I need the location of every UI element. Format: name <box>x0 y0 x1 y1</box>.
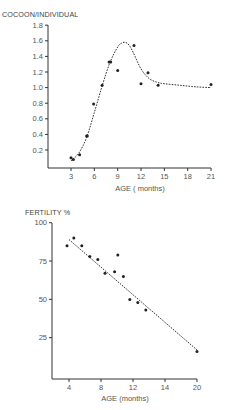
fertility-axes <box>52 223 197 379</box>
cocoon-chart-svg: COCOON/INDIVIDUAL 0.20.40.60.81.01.21.41… <box>0 0 227 205</box>
y-tick-label: 1.6 <box>33 36 43 45</box>
data-point <box>133 44 136 47</box>
x-tick-label: 3 <box>69 172 73 181</box>
y-tick-label: 0.6 <box>33 114 43 123</box>
fertility-data-points <box>66 237 199 354</box>
cocoon-x-axis-ticks: 36912151821 <box>69 168 215 181</box>
fertility-x-axis-ticks: 48121420 <box>67 379 201 392</box>
cocoon-data-points <box>70 44 213 161</box>
data-point <box>92 103 95 106</box>
x-tick-label: 8 <box>99 383 103 392</box>
y-tick-label: 25 <box>39 333 47 342</box>
data-point <box>157 84 160 87</box>
data-point <box>196 350 199 353</box>
x-tick-label: 12 <box>129 383 137 392</box>
y-tick-label: 0.4 <box>33 130 43 139</box>
y-tick-label: 0.8 <box>33 99 43 108</box>
data-point <box>122 275 125 278</box>
data-point <box>210 83 213 86</box>
data-point <box>147 71 150 74</box>
y-tick-label: 1.0 <box>33 83 43 92</box>
x-tick-label: 9 <box>116 172 120 181</box>
fertility-chart-title: FERTILITY % <box>25 208 71 217</box>
data-point <box>72 237 75 240</box>
cocoon-y-axis-ticks: 0.20.40.60.81.01.21.41.61.8 <box>33 21 48 155</box>
data-point <box>113 270 116 273</box>
data-point <box>128 298 131 301</box>
data-point <box>116 253 119 256</box>
x-tick-label: 14 <box>161 383 169 392</box>
fertility-x-axis-label: AGE (months) <box>101 394 149 403</box>
cocoon-fitted-curve <box>71 42 211 161</box>
data-point <box>88 255 91 258</box>
y-tick-label: 1.2 <box>33 68 43 77</box>
data-point <box>136 301 139 304</box>
y-tick-label: 1.8 <box>33 21 43 30</box>
x-tick-label: 15 <box>160 172 168 181</box>
cocoon-chart-title: COCOON/INDIVIDUAL <box>2 10 78 19</box>
data-point <box>86 135 89 138</box>
fertility-regression-line <box>69 240 197 350</box>
data-point <box>80 244 83 247</box>
data-point <box>78 153 81 156</box>
data-point <box>66 244 69 247</box>
data-point <box>144 309 147 312</box>
y-tick-label: 100 <box>34 218 47 227</box>
x-tick-label: 21 <box>207 172 215 181</box>
x-tick-label: 12 <box>137 172 145 181</box>
x-tick-label: 18 <box>184 172 192 181</box>
data-point <box>116 69 119 72</box>
y-tick-label: 0.2 <box>33 146 43 155</box>
x-tick-label: 6 <box>92 172 96 181</box>
y-tick-label: 1.4 <box>33 52 43 61</box>
cocoon-x-axis-label: AGE ( months) <box>115 184 165 193</box>
y-tick-label: 75 <box>39 257 47 266</box>
fertility-chart: FERTILITY % 255075100 48121420 AGE (mont… <box>0 205 227 410</box>
data-point <box>72 158 75 161</box>
fertility-y-axis-ticks: 255075100 <box>34 218 52 342</box>
fertility-chart-svg: FERTILITY % 255075100 48121420 AGE (mont… <box>0 205 227 410</box>
x-tick-label: 4 <box>67 383 71 392</box>
x-tick-label: 20 <box>193 383 201 392</box>
data-point <box>140 82 143 85</box>
y-tick-label: 50 <box>39 295 47 304</box>
data-point <box>101 84 104 87</box>
cocoon-chart: COCOON/INDIVIDUAL 0.20.40.60.81.01.21.41… <box>0 0 227 205</box>
data-point <box>109 60 112 63</box>
data-point <box>96 258 99 261</box>
data-point <box>104 272 107 275</box>
